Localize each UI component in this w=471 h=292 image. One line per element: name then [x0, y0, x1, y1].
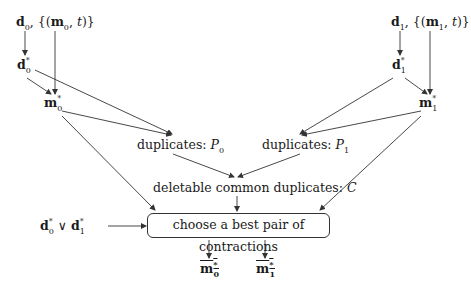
node-common-duplicates: deletable common duplicates: C	[153, 181, 357, 195]
node-duplicates-p1: duplicates: P1	[262, 138, 349, 152]
node-d-or: d*0 ∨ d*1	[40, 219, 85, 233]
edge-d0star-to-m0star	[27, 78, 51, 94]
edge-d1star-to-m1star	[405, 78, 427, 94]
edge-m0star-to-dup0	[62, 111, 171, 135]
input-node-1: d1, {(m1, t)}	[391, 15, 470, 29]
edge-dup1-to-common	[238, 154, 300, 177]
edge-m0star-to-choose	[62, 116, 155, 210]
edge-m1star-to-choose	[320, 116, 421, 210]
edge-dup0-to-common	[173, 154, 234, 177]
output-m1-bar: m*1	[256, 262, 275, 276]
node-m1-star: m*1	[419, 96, 437, 110]
choose-contractions-box: choose a best pair of contractions	[147, 213, 330, 238]
node-d0-star: d*0	[17, 58, 31, 72]
edge-m1star-to-dup1	[302, 111, 421, 135]
node-m0-star: m*0	[44, 96, 62, 110]
node-duplicates-p0: duplicates: P0	[137, 138, 224, 152]
node-d1-star: d*1	[392, 58, 406, 72]
input-node-0: d0, {(m0, t)}	[16, 15, 95, 29]
output-m0-bar: m*0	[200, 262, 219, 276]
